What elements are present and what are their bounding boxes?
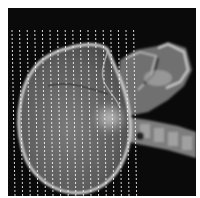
xray-image — [8, 8, 196, 196]
xray-canvas — [8, 8, 196, 196]
